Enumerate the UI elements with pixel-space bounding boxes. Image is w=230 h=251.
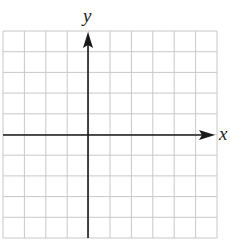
coordinate-grid-svg: x y bbox=[0, 0, 230, 251]
y-axis-label: y bbox=[81, 5, 92, 26]
coordinate-plane: x y bbox=[0, 0, 230, 251]
x-axis-label: x bbox=[218, 123, 228, 144]
x-axis bbox=[3, 130, 215, 140]
